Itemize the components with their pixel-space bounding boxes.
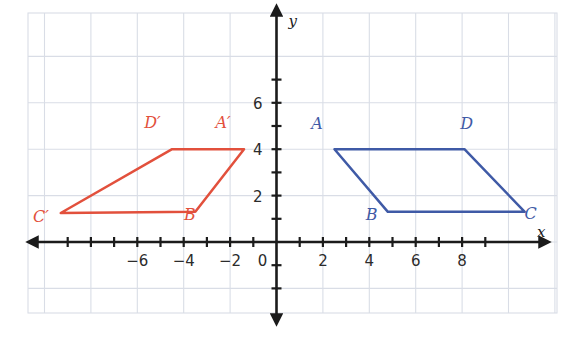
vertex-label-b-prime: B′: [183, 205, 200, 224]
vertex-label-b: B: [365, 205, 378, 224]
vertex-label-c: C: [524, 204, 536, 223]
x-tick-label: −6: [126, 252, 148, 270]
vertex-label-d: D: [459, 114, 473, 133]
figure-svg: −6−4−224682460 ABCDA′B′C′D′ yx: [0, 0, 586, 345]
x-tick-label: 2: [318, 252, 328, 270]
vertex-label-d-prime: D′: [143, 113, 161, 132]
y-tick-label: 4: [253, 141, 263, 159]
y-tick-label: 2: [253, 188, 263, 206]
x-tick-label: −4: [173, 252, 195, 270]
x-tick-label: −2: [219, 252, 241, 270]
vertex-label-c-prime: C′: [33, 207, 49, 226]
vertex-label-a-prime: A′: [214, 113, 232, 132]
x-tick-label: 4: [365, 252, 375, 270]
x-tick-label: 8: [457, 252, 467, 270]
x-axis-label: x: [537, 223, 546, 241]
vertex-label-a: A: [309, 114, 323, 133]
x-tick-label: 6: [411, 252, 421, 270]
coordinate-plane-figure: −6−4−224682460 ABCDA′B′C′D′ yx: [0, 0, 586, 345]
y-tick-label: 6: [253, 95, 263, 113]
y-axis-label: y: [288, 12, 298, 30]
origin-label: 0: [258, 252, 268, 270]
